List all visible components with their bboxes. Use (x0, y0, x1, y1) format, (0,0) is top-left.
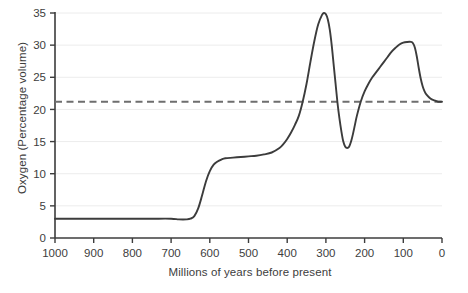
svg-text:100: 100 (394, 247, 413, 259)
svg-text:700: 700 (162, 247, 181, 259)
svg-text:400: 400 (278, 247, 297, 259)
svg-text:30: 30 (33, 39, 46, 51)
svg-text:200: 200 (355, 247, 374, 259)
svg-text:25: 25 (33, 71, 46, 83)
oxygen-history-chart: 05101520253035 1000900800700600500400300… (0, 0, 468, 293)
svg-text:15: 15 (33, 136, 46, 148)
x-axis-ticks: 10009008007006005004003002001000 (42, 238, 445, 259)
y-axis-label: Oxygen (Percentage volume) (16, 8, 28, 228)
svg-text:5: 5 (40, 200, 46, 212)
svg-text:0: 0 (40, 232, 46, 244)
svg-text:900: 900 (84, 247, 103, 259)
y-axis-ticks: 05101520253035 (33, 7, 55, 244)
oxygen-curve (55, 13, 442, 219)
svg-text:35: 35 (33, 7, 46, 19)
x-axis-label: Millions of years before present (55, 266, 445, 278)
svg-text:20: 20 (33, 104, 46, 116)
gridlines (55, 13, 442, 206)
svg-text:500: 500 (239, 247, 258, 259)
svg-text:600: 600 (200, 247, 219, 259)
chart-canvas: 05101520253035 1000900800700600500400300… (0, 0, 468, 293)
svg-text:800: 800 (123, 247, 142, 259)
axis-lines (55, 12, 442, 238)
svg-text:300: 300 (316, 247, 335, 259)
svg-text:0: 0 (439, 247, 445, 259)
svg-text:1000: 1000 (42, 247, 68, 259)
svg-text:10: 10 (33, 168, 46, 180)
